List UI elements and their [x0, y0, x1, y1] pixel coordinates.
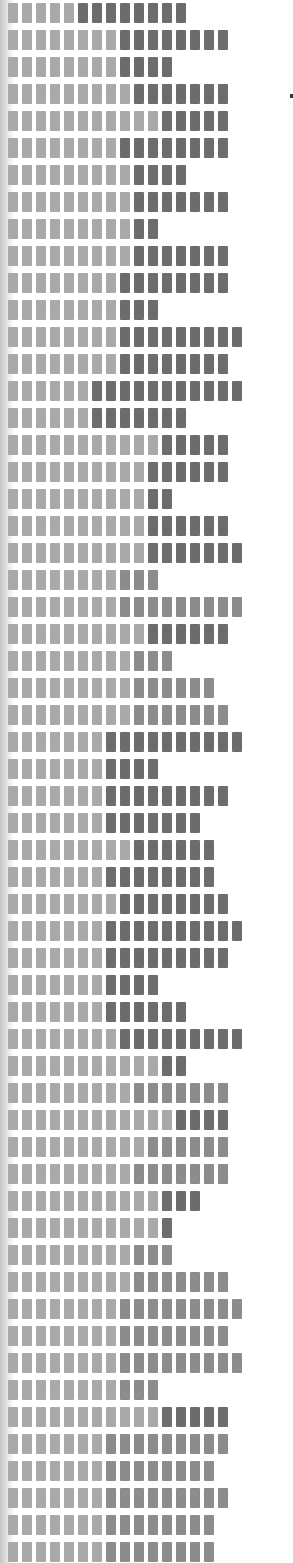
light-block [8, 57, 18, 77]
dark-block [162, 1029, 172, 1049]
dark-block [162, 3, 172, 23]
block-row [8, 489, 172, 509]
dark-block [134, 219, 144, 239]
dark-block [204, 462, 214, 482]
light-block [78, 1407, 88, 1427]
light-block [106, 354, 116, 374]
dark-block [106, 1002, 116, 1022]
light-block [8, 1434, 18, 1454]
light-block [106, 219, 116, 239]
light-block [50, 813, 60, 833]
dark-block [120, 1434, 130, 1454]
light-block [64, 813, 74, 833]
dark-block [190, 1272, 200, 1292]
dark-block [162, 111, 172, 131]
dark-block [120, 1515, 130, 1535]
dark-block [162, 597, 172, 617]
dark-block [148, 678, 158, 698]
light-block [106, 111, 116, 131]
dark-block [176, 597, 186, 617]
light-block [22, 867, 32, 887]
dark-block [190, 111, 200, 131]
light-block [36, 1272, 46, 1292]
dark-block [204, 435, 214, 455]
light-block [92, 57, 102, 77]
dark-block [190, 921, 200, 941]
light-block [92, 759, 102, 779]
light-block [22, 408, 32, 428]
dark-block [204, 327, 214, 347]
light-block [36, 1407, 46, 1427]
light-block [106, 1218, 116, 1238]
dark-block [148, 1326, 158, 1346]
light-block [92, 273, 102, 293]
block-row [8, 30, 228, 50]
light-block [120, 705, 130, 725]
light-block [92, 651, 102, 671]
light-block [50, 1272, 60, 1292]
light-block [50, 1434, 60, 1454]
light-block [106, 840, 116, 860]
light-block [36, 1488, 46, 1508]
light-block [148, 435, 158, 455]
light-block [134, 1218, 144, 1238]
dark-block [176, 1515, 186, 1535]
light-block [106, 1110, 116, 1130]
dark-block [134, 1326, 144, 1346]
dark-block [176, 462, 186, 482]
light-block [36, 624, 46, 644]
light-block [22, 975, 32, 995]
dark-block [176, 1488, 186, 1508]
light-block [64, 192, 74, 212]
block-row [8, 1083, 228, 1103]
dark-block [134, 759, 144, 779]
block-row [8, 543, 242, 563]
block-row [8, 84, 228, 104]
light-block [50, 435, 60, 455]
light-block [22, 1191, 32, 1211]
dark-block [190, 1137, 200, 1157]
dark-block [134, 30, 144, 50]
light-block [64, 516, 74, 536]
light-block [50, 1515, 60, 1535]
dark-block [176, 948, 186, 968]
block-row [8, 435, 228, 455]
dark-block [120, 1029, 130, 1049]
light-block [78, 84, 88, 104]
dark-block [204, 1542, 214, 1562]
light-block [92, 1353, 102, 1373]
dark-block [134, 678, 144, 698]
dark-block [162, 1137, 172, 1157]
light-block [8, 1515, 18, 1535]
light-block [36, 57, 46, 77]
light-block [78, 1191, 88, 1211]
dark-block [190, 624, 200, 644]
light-block [120, 1083, 130, 1103]
dark-block [176, 543, 186, 563]
light-block [36, 1299, 46, 1319]
light-block [50, 1407, 60, 1427]
light-block [120, 1245, 130, 1265]
light-block [8, 813, 18, 833]
dark-block [120, 732, 130, 752]
dark-block [120, 1542, 130, 1562]
light-block [36, 3, 46, 23]
dark-block [148, 597, 158, 617]
block-row [8, 705, 228, 725]
light-block [22, 1353, 32, 1373]
dark-block [204, 1164, 214, 1184]
light-block [50, 921, 60, 941]
dark-block [120, 894, 130, 914]
block-row [8, 3, 186, 23]
light-block [64, 786, 74, 806]
dark-block [134, 138, 144, 158]
light-block [8, 516, 18, 536]
dark-block [148, 921, 158, 941]
dark-block [218, 705, 228, 725]
dark-block [218, 786, 228, 806]
light-block [8, 219, 18, 239]
light-block [22, 381, 32, 401]
light-block [106, 705, 116, 725]
dark-block [120, 273, 130, 293]
block-row [8, 381, 242, 401]
